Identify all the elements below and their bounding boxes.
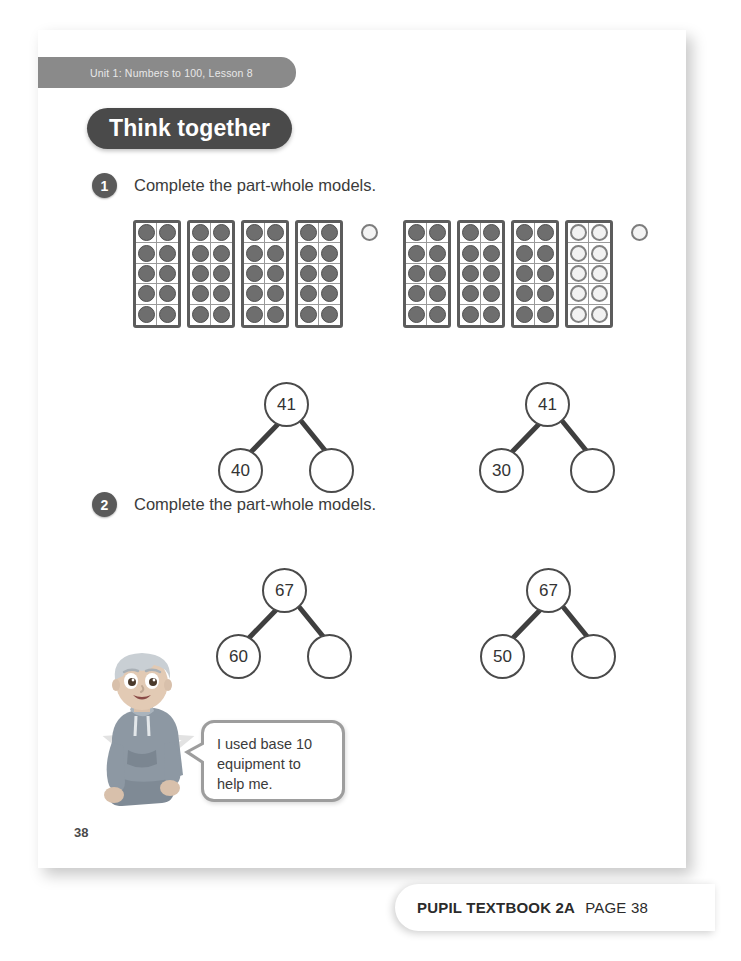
counter-filled (537, 265, 554, 282)
ten-frame-cell (568, 284, 589, 304)
ten-frame-cell (298, 243, 319, 263)
counter-filled (159, 285, 176, 302)
ten-frame (403, 220, 451, 328)
part-node-right-blank[interactable] (307, 634, 352, 679)
ten-frame-cell (589, 243, 610, 263)
speech-line-2: equipment to (217, 754, 329, 774)
counter-filled (537, 245, 554, 262)
ten-frame-cell (406, 223, 427, 243)
counter-filled (483, 224, 500, 241)
ten-frame-cell (211, 243, 232, 263)
ten-frame-cell (298, 284, 319, 304)
ten-frame-cell (265, 305, 286, 325)
ten-frame-cell (265, 264, 286, 284)
counter-filled (321, 306, 338, 323)
ten-frame-cell (481, 284, 502, 304)
counter-filled (462, 285, 479, 302)
unit-lesson-tab: Unit 1: Numbers to 100, Lesson 8 (38, 57, 296, 88)
unit-lesson-label: Unit 1: Numbers to 100, Lesson 8 (38, 67, 253, 79)
ten-frame-cell (244, 284, 265, 304)
counter-filled (138, 306, 155, 323)
counter-filled (483, 285, 500, 302)
ten-frame-cell (406, 264, 427, 284)
part-node-left: 60 (216, 634, 261, 679)
counter-filled (213, 245, 230, 262)
counter-empty (570, 306, 587, 323)
counter-filled (429, 224, 446, 241)
ten-frame-cell (589, 223, 610, 243)
base-ten-group-b (403, 220, 648, 328)
part-node-right-blank[interactable] (309, 448, 354, 493)
question-1-number: 1 (92, 173, 117, 198)
ten-frame-cell (589, 264, 610, 284)
ten-frame-cell (460, 243, 481, 263)
ten-frame-cell (460, 305, 481, 325)
counter-filled (516, 306, 533, 323)
ten-frame-cell (589, 305, 610, 325)
ten-frame-cell (244, 264, 265, 284)
ten-frame-cell (514, 243, 535, 263)
ten-frame-cell (190, 223, 211, 243)
counter-filled (429, 245, 446, 262)
ten-frame-cell (514, 264, 535, 284)
base-ten-group-a (133, 220, 378, 328)
ten-frame (241, 220, 289, 328)
ten-frame (511, 220, 559, 328)
counter-filled (138, 285, 155, 302)
counter-filled (213, 224, 230, 241)
counter-filled (159, 306, 176, 323)
boy-character-illustration (86, 650, 196, 828)
part-node-right-blank[interactable] (570, 448, 615, 493)
counter-filled (300, 224, 317, 241)
speech-bubble-tail-inner (190, 744, 205, 762)
counter-filled (246, 285, 263, 302)
counter-empty (591, 306, 608, 323)
ten-frame-cell (157, 264, 178, 284)
counter-filled (213, 265, 230, 282)
counter-filled (537, 224, 554, 241)
whole-node: 67 (526, 568, 571, 613)
ten-frame-cell (481, 305, 502, 325)
counter-filled (483, 245, 500, 262)
counter-filled (192, 285, 209, 302)
ten-frame-cell (136, 284, 157, 304)
part-node-right-blank[interactable] (571, 634, 616, 679)
ten-frame-cell (481, 223, 502, 243)
ten-frame-cell (406, 284, 427, 304)
question-1: 1 Complete the part-whole models. (92, 173, 376, 198)
counter-filled (213, 306, 230, 323)
counter-filled (300, 245, 317, 262)
page-number: 38 (74, 825, 88, 840)
counter-filled (537, 285, 554, 302)
textbook-page: Unit 1: Numbers to 100, Lesson 8 Think t… (38, 30, 686, 868)
counter-filled (267, 245, 284, 262)
counter-filled (246, 224, 263, 241)
ten-frame-cell (211, 223, 232, 243)
ten-frame-cell (136, 305, 157, 325)
ten-frame-cell (190, 243, 211, 263)
counter-empty (570, 224, 587, 241)
counter-filled (192, 245, 209, 262)
ten-frame-cell (427, 223, 448, 243)
part-whole-model-4: 67 50 (480, 568, 656, 681)
part-whole-model-1: 41 40 (218, 382, 394, 495)
question-2: 2 Complete the part-whole models. (92, 492, 376, 517)
ten-frame-cell (535, 223, 556, 243)
ten-frame-cell (568, 305, 589, 325)
whole-node: 41 (264, 382, 309, 427)
ten-frame-cell (190, 264, 211, 284)
counter-filled (408, 285, 425, 302)
ten-frame-cell (157, 305, 178, 325)
counter-filled (300, 285, 317, 302)
speech-line-3: help me. (217, 774, 329, 794)
ten-frame-empty (565, 220, 613, 328)
counter-filled (516, 245, 533, 262)
counter-filled (138, 265, 155, 282)
ten-frame-cell (190, 305, 211, 325)
ten-frame-cell (265, 243, 286, 263)
counter-filled (267, 224, 284, 241)
ten-frame-cell (406, 243, 427, 263)
ten-frame (133, 220, 181, 328)
counter-filled (462, 265, 479, 282)
ten-frame-cell (211, 305, 232, 325)
